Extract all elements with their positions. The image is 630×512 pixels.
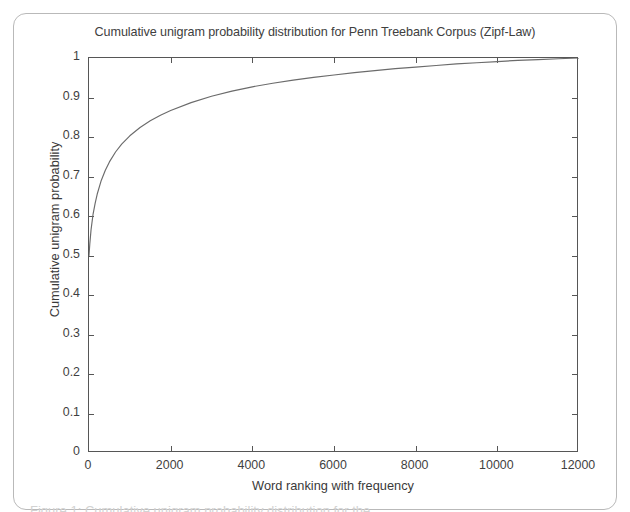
x-tick-label: 10000 bbox=[456, 458, 536, 472]
x-tick-label: 2000 bbox=[130, 458, 210, 472]
data-curve-svg bbox=[89, 58, 579, 453]
y-tick-label: 0 bbox=[34, 444, 80, 458]
chart-title: Cumulative unigram probability distribut… bbox=[0, 25, 630, 39]
x-tick-label: 8000 bbox=[375, 458, 455, 472]
x-tick-label: 6000 bbox=[293, 458, 373, 472]
x-axis-title: Word ranking with frequency bbox=[88, 478, 578, 493]
y-tick-label: 1 bbox=[34, 49, 80, 63]
figure-root: Cumulative unigram probability distribut… bbox=[0, 0, 630, 512]
plot-area bbox=[88, 57, 578, 452]
x-tick-label: 4000 bbox=[211, 458, 291, 472]
x-tick-label: 12000 bbox=[538, 458, 618, 472]
x-tick-label: 0 bbox=[48, 458, 128, 472]
caption-remnant: Figure 1: Cumulative unigram probability… bbox=[30, 503, 590, 512]
cumulative-probability-curve bbox=[89, 58, 579, 256]
y-tick-label: 0.1 bbox=[34, 405, 80, 419]
y-axis-title: Cumulative unigram probability bbox=[47, 80, 62, 380]
